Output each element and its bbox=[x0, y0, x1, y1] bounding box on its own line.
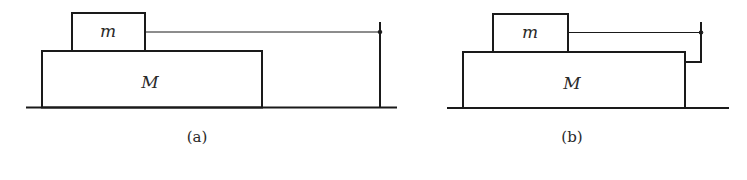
attachment-point-a bbox=[378, 30, 382, 34]
caption-a: (a) bbox=[187, 128, 208, 146]
large-block-label-a: M bbox=[140, 72, 159, 92]
small-block-label-a: m bbox=[100, 21, 116, 41]
caption-b: (b) bbox=[561, 128, 582, 146]
panel-a bbox=[26, 13, 397, 108]
large-block-label-b: M bbox=[562, 73, 581, 93]
small-block-label-b: m bbox=[522, 22, 538, 42]
attachment-point-b bbox=[699, 31, 703, 35]
physics-diagram: m M (a) m M (b) bbox=[0, 0, 747, 180]
panel-b bbox=[447, 14, 729, 108]
bracket-post-b bbox=[685, 22, 701, 62]
